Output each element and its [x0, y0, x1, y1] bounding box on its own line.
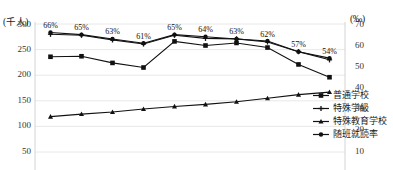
- legend-label: 随班就読率: [333, 129, 378, 140]
- svg-text:62%: 62%: [260, 30, 275, 39]
- series-特殊教育学校: [48, 89, 332, 118]
- diamond-marker-icon: [312, 129, 330, 140]
- legend-label: 特殊学級: [333, 103, 369, 114]
- legend-label: 特殊教育学校: [333, 116, 387, 127]
- legend-item-1[interactable]: 特殊学級: [312, 102, 387, 115]
- legend-item-0[interactable]: 普通学校: [312, 89, 387, 102]
- cross-marker-icon: [312, 103, 330, 114]
- legend-item-3[interactable]: 随班就読率: [312, 128, 387, 141]
- svg-text:61%: 61%: [136, 32, 151, 41]
- plot-area: 66%65%63%61%65%64%63%62%57%54%: [0, 0, 393, 170]
- triangle-marker-icon: [312, 116, 330, 127]
- svg-text:57%: 57%: [291, 40, 306, 49]
- series-随班就読率: [48, 30, 331, 60]
- svg-text:63%: 63%: [105, 27, 120, 36]
- legend: 普通学校特殊学級特殊教育学校随班就読率: [312, 89, 387, 141]
- legend-item-2[interactable]: 特殊教育学校: [312, 115, 387, 128]
- series-layer: [48, 30, 332, 118]
- chart-container: (千人) (‰) 300 250 200 150 100 50 70 60 50…: [0, 0, 393, 170]
- svg-text:63%: 63%: [229, 27, 244, 36]
- svg-text:65%: 65%: [167, 23, 182, 32]
- square-marker-icon: [312, 90, 330, 101]
- svg-text:64%: 64%: [198, 25, 213, 34]
- svg-text:54%: 54%: [322, 47, 337, 56]
- svg-text:66%: 66%: [43, 21, 58, 30]
- svg-text:65%: 65%: [74, 23, 89, 32]
- legend-label: 普通学校: [333, 90, 369, 101]
